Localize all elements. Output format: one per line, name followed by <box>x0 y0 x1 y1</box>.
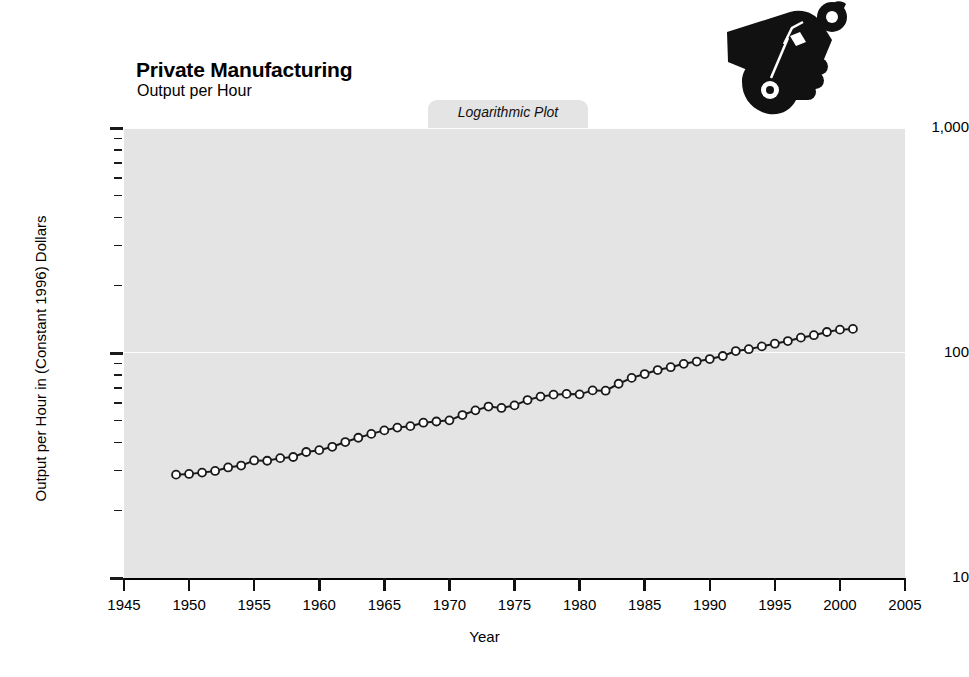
data-point-marker <box>719 352 727 360</box>
y-tick-minor <box>114 510 122 512</box>
x-tick-label: 1970 <box>419 596 479 613</box>
data-point-marker <box>810 331 818 339</box>
data-point-marker <box>315 446 323 454</box>
page-title: Private Manufacturing <box>136 58 352 82</box>
data-point-marker <box>406 422 414 430</box>
log-plot-badge: Logarithmic Plot <box>428 100 588 130</box>
y-tick-minor <box>114 442 122 444</box>
x-tick-label: 1955 <box>224 596 284 613</box>
data-point-marker <box>432 418 440 426</box>
data-point-marker <box>537 393 545 401</box>
data-point-marker <box>341 438 349 446</box>
y-tick-minor <box>114 177 122 179</box>
x-tick <box>839 578 842 591</box>
data-point-marker <box>367 430 375 438</box>
data-point-marker <box>302 448 310 456</box>
hand-holding-wrench-icon <box>672 0 872 115</box>
data-point-marker <box>758 342 766 350</box>
data-point-marker <box>250 456 258 464</box>
data-point-marker <box>628 374 636 382</box>
data-point-marker <box>224 463 232 471</box>
y-tick-minor <box>114 217 122 219</box>
data-point-marker <box>797 334 805 342</box>
chart-page: Private Manufacturing Output per Hour Lo… <box>0 0 969 677</box>
data-point-marker <box>198 469 206 477</box>
y-tick-minor <box>114 374 122 376</box>
x-tick-label: 1990 <box>680 596 740 613</box>
data-point-marker <box>484 403 492 411</box>
data-point-marker <box>641 370 649 378</box>
data-point-marker <box>849 325 857 333</box>
x-tick-label: 1975 <box>485 596 545 613</box>
x-tick <box>123 578 126 591</box>
x-tick-label: 1995 <box>745 596 805 613</box>
data-point-marker <box>550 391 558 399</box>
x-tick-label: 1960 <box>289 596 349 613</box>
data-point-marker <box>185 470 193 478</box>
x-axis-title: Year <box>0 628 969 645</box>
data-point-marker <box>419 419 427 427</box>
x-tick-label: 1950 <box>159 596 219 613</box>
data-point-marker <box>667 363 675 371</box>
x-tick <box>253 578 256 591</box>
data-point-marker <box>693 358 701 366</box>
x-tick <box>448 578 451 591</box>
y-tick-minor <box>114 195 122 197</box>
data-point-marker <box>563 390 571 398</box>
x-tick <box>578 578 581 591</box>
data-point-marker <box>458 411 466 419</box>
y-axis-title: Output per Hour in (Constant 1996) Dolla… <box>32 149 49 569</box>
x-tick-label: 1985 <box>615 596 675 613</box>
y-tick-minor <box>114 245 122 247</box>
y-tick-minor <box>114 402 122 404</box>
data-point-marker <box>680 360 688 368</box>
x-tick-label: 1945 <box>94 596 154 613</box>
data-point-marker <box>745 345 753 353</box>
x-tick-label: 1965 <box>354 596 414 613</box>
x-tick <box>904 578 907 591</box>
y-tick-minor <box>114 470 122 472</box>
data-point-marker <box>172 471 180 479</box>
data-point-marker <box>771 340 779 348</box>
log-plot-badge-label: Logarithmic Plot <box>428 104 588 120</box>
data-point-marker <box>328 443 336 451</box>
data-point-marker <box>445 416 453 424</box>
data-point-marker <box>354 434 362 442</box>
data-point-marker <box>589 386 597 394</box>
x-tick-label: 2005 <box>875 596 935 613</box>
data-point-marker <box>237 462 245 470</box>
y-tick-major <box>110 352 123 355</box>
y-tick-minor <box>114 420 122 422</box>
data-point-marker <box>576 390 584 398</box>
data-point-marker <box>289 453 297 461</box>
data-point-marker <box>706 355 714 363</box>
data-point-marker <box>732 347 740 355</box>
data-series <box>124 128 905 578</box>
x-tick <box>318 578 321 591</box>
data-point-marker <box>654 366 662 374</box>
data-point-marker <box>524 396 532 404</box>
x-tick <box>513 578 516 591</box>
x-tick-label: 2000 <box>810 596 870 613</box>
x-tick <box>643 578 646 591</box>
x-tick <box>188 578 191 591</box>
data-point-marker <box>615 380 623 388</box>
y-tick-minor <box>114 149 122 151</box>
x-tick <box>774 578 777 591</box>
x-tick <box>709 578 712 591</box>
data-point-marker <box>263 457 271 465</box>
y-tick-minor <box>114 138 122 140</box>
data-point-marker <box>497 404 505 412</box>
data-point-marker <box>602 387 610 395</box>
y-tick-major <box>110 127 123 130</box>
y-tick-minor <box>114 285 122 287</box>
data-point-marker <box>511 401 519 409</box>
y-tick-minor <box>114 387 122 389</box>
page-subtitle: Output per Hour <box>137 82 252 100</box>
y-tick-major <box>110 577 123 580</box>
data-point-marker <box>784 337 792 345</box>
y-tick-minor <box>114 162 122 164</box>
data-point-marker <box>380 426 388 434</box>
data-point-marker <box>471 406 479 414</box>
data-point-marker <box>276 454 284 462</box>
